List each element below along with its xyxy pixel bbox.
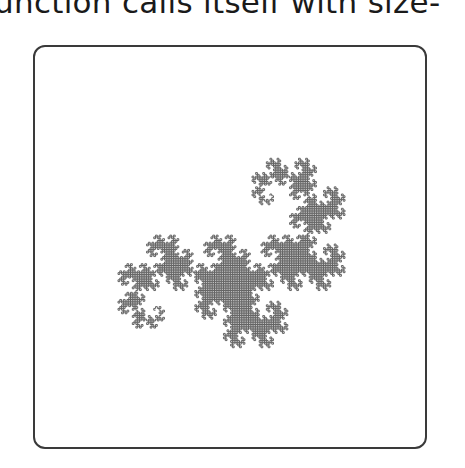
dragon-curve-fractal: [0, 0, 465, 468]
